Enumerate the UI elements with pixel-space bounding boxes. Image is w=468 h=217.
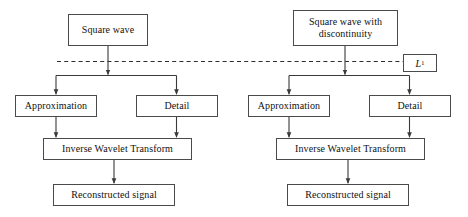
flowchart-diagram: Square wave Approximation Detail Inverse… <box>0 0 468 217</box>
node-right-source-label-line1: Square wave with <box>309 16 382 29</box>
node-left-approximation[interactable]: Approximation <box>15 95 97 117</box>
node-left-source-label: Square wave <box>82 24 134 36</box>
node-left-detail[interactable]: Detail <box>136 95 218 117</box>
node-left-output-label: Reconstructed signal <box>71 189 157 201</box>
level-1-label-box[interactable]: L1 <box>403 54 437 72</box>
node-left-reconstructed-signal[interactable]: Reconstructed signal <box>53 184 175 206</box>
node-left-detail-label: Detail <box>164 100 189 112</box>
node-left-inverse-wavelet-transform[interactable]: Inverse Wavelet Transform <box>43 138 192 160</box>
node-right-transform-label: Inverse Wavelet Transform <box>295 143 406 155</box>
level-1-label-subscript: 1 <box>421 59 425 67</box>
node-right-detail[interactable]: Detail <box>369 95 451 117</box>
node-right-source[interactable]: Square wave with discontinuity <box>293 10 398 46</box>
node-right-detail-label: Detail <box>397 100 422 112</box>
node-left-source[interactable]: Square wave <box>68 14 148 46</box>
node-right-source-label-line2: discontinuity <box>319 28 373 41</box>
node-right-approximation[interactable]: Approximation <box>248 95 330 117</box>
node-left-transform-label: Inverse Wavelet Transform <box>62 143 173 155</box>
node-right-reconstructed-signal[interactable]: Reconstructed signal <box>287 184 409 206</box>
node-right-inverse-wavelet-transform[interactable]: Inverse Wavelet Transform <box>276 138 425 160</box>
node-right-output-label: Reconstructed signal <box>305 189 391 201</box>
node-right-approximation-label: Approximation <box>258 100 320 112</box>
node-left-approximation-label: Approximation <box>25 100 87 112</box>
